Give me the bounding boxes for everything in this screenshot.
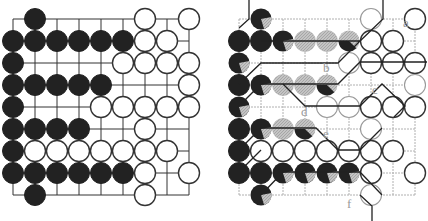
stone (383, 141, 404, 162)
stone (157, 141, 178, 162)
point-label-b: b (323, 60, 330, 75)
stone (3, 31, 24, 52)
stone (3, 97, 24, 118)
stone (135, 97, 156, 118)
stone (251, 141, 272, 162)
stone (317, 75, 338, 96)
stone (361, 119, 382, 140)
stone (317, 97, 338, 118)
point-label-f: f (347, 196, 352, 211)
stone (179, 9, 200, 30)
stone (273, 119, 294, 140)
stone (3, 75, 24, 96)
stone (113, 141, 134, 162)
point-label-d: d (301, 104, 308, 119)
left-go-board (3, 9, 200, 206)
stone (251, 119, 272, 140)
stone (69, 141, 90, 162)
stone (361, 163, 382, 184)
stone (135, 163, 156, 184)
stone (295, 75, 316, 96)
stone (25, 163, 46, 184)
stone (69, 31, 90, 52)
stone (25, 31, 46, 52)
stone (47, 31, 68, 52)
stone (361, 53, 382, 74)
stone (25, 185, 46, 206)
point-label-a: a (403, 15, 409, 30)
stone (179, 163, 200, 184)
stone (25, 75, 46, 96)
stone (229, 141, 250, 162)
stone (317, 141, 338, 162)
stone (25, 9, 46, 30)
stone (91, 31, 112, 52)
stone (339, 97, 360, 118)
stone (383, 53, 404, 74)
stone (361, 97, 382, 118)
stone (339, 53, 360, 74)
stone (69, 75, 90, 96)
stone (405, 163, 426, 184)
stone (25, 141, 46, 162)
stone (113, 97, 134, 118)
stone (273, 75, 294, 96)
stone (273, 141, 294, 162)
stone (295, 119, 316, 140)
stone (113, 31, 134, 52)
stone (295, 163, 316, 184)
stone (135, 53, 156, 74)
stone (405, 75, 426, 96)
stone (157, 97, 178, 118)
stone (91, 97, 112, 118)
stone (47, 119, 68, 140)
stone (91, 75, 112, 96)
stone (3, 141, 24, 162)
stone (361, 9, 382, 30)
stone (383, 97, 404, 118)
stone (229, 31, 250, 52)
stone (91, 141, 112, 162)
stone (157, 31, 178, 52)
stone (113, 163, 134, 184)
point-label-c: c (372, 82, 378, 97)
stone (135, 31, 156, 52)
stone (361, 31, 382, 52)
stone (251, 163, 272, 184)
stone (361, 141, 382, 162)
stone (3, 53, 24, 74)
stone (179, 97, 200, 118)
stone (229, 53, 250, 74)
stone (361, 185, 382, 206)
go-diagram-canvas: abcdef (0, 0, 428, 221)
stone (3, 163, 24, 184)
stone (135, 9, 156, 30)
stone (91, 163, 112, 184)
stone (251, 9, 272, 30)
stone (135, 185, 156, 206)
stone (47, 163, 68, 184)
point-label-e: e (323, 126, 329, 141)
stone (405, 97, 426, 118)
stone (135, 119, 156, 140)
stone (179, 75, 200, 96)
stone (339, 163, 360, 184)
stone (157, 53, 178, 74)
stone (3, 119, 24, 140)
stone (229, 163, 250, 184)
stone (135, 141, 156, 162)
stone (47, 75, 68, 96)
stone (69, 119, 90, 140)
stone (229, 119, 250, 140)
stone (113, 53, 134, 74)
stone (383, 31, 404, 52)
stone (317, 163, 338, 184)
stone (251, 75, 272, 96)
right-go-board (229, 0, 428, 221)
stone (25, 119, 46, 140)
stone (69, 163, 90, 184)
stone (179, 53, 200, 74)
stone (295, 141, 316, 162)
stone (405, 53, 426, 74)
stone (339, 141, 360, 162)
